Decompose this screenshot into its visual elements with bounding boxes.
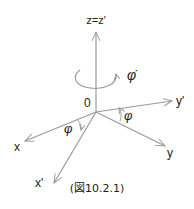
figure-caption: (図10.2.1) xyxy=(70,182,125,195)
angle-arc-y-icon xyxy=(119,108,121,121)
angle-arc-x-icon xyxy=(78,120,81,130)
y-axis-label: y xyxy=(167,146,173,160)
x-axis xyxy=(25,112,96,141)
y-prime-axis xyxy=(96,101,172,112)
rotation-diagram: z=z' y' y x x' 0 φ̇ φ φ (図10.2.1) xyxy=(0,0,194,209)
y-prime-axis-label: y' xyxy=(176,94,184,108)
x-axis-label: x xyxy=(14,140,20,154)
phi-label-y: φ xyxy=(124,108,133,123)
phi-label-x: φ xyxy=(64,121,73,136)
z-axis-label: z=z' xyxy=(86,14,106,26)
x-prime-axis-label: x' xyxy=(35,176,43,190)
x-prime-axis xyxy=(54,112,96,183)
phi-dot-label: φ̇ xyxy=(127,67,137,83)
origin-label: 0 xyxy=(84,96,91,110)
